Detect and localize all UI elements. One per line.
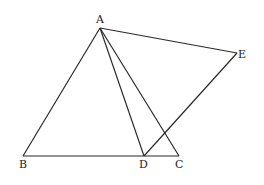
segment-ac [100, 28, 179, 156]
label-e: E [238, 48, 246, 61]
segment-ad [100, 28, 144, 156]
label-b: B [19, 158, 27, 171]
segment-de [144, 53, 237, 156]
geometry-diagram: A B C D E [0, 0, 264, 185]
segment-ae [100, 28, 237, 53]
label-c: C [175, 158, 183, 171]
label-d: D [139, 158, 148, 171]
segment-ab [23, 28, 100, 156]
label-a: A [95, 13, 105, 26]
